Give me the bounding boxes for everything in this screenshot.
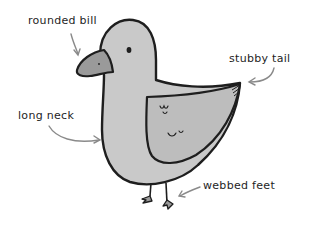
label-webbed-feet: webbed feet	[203, 180, 275, 191]
neck-arrow-icon	[49, 126, 99, 141]
right-foot	[163, 200, 173, 209]
nostril	[98, 63, 100, 65]
feet-arrow-icon	[180, 187, 200, 196]
duck-legs	[150, 183, 167, 203]
duck-diagram: rounded bill stubby tail long neck webbe…	[0, 0, 314, 225]
duck-eye	[127, 47, 132, 53]
duck-bill	[77, 50, 113, 76]
label-long-neck: long neck	[18, 110, 74, 121]
tail-arrow-icon	[250, 68, 274, 82]
duck-wing	[146, 84, 240, 163]
label-rounded-bill: rounded bill	[28, 15, 97, 26]
label-stubby-tail: stubby tail	[229, 53, 290, 64]
left-foot	[142, 196, 152, 203]
